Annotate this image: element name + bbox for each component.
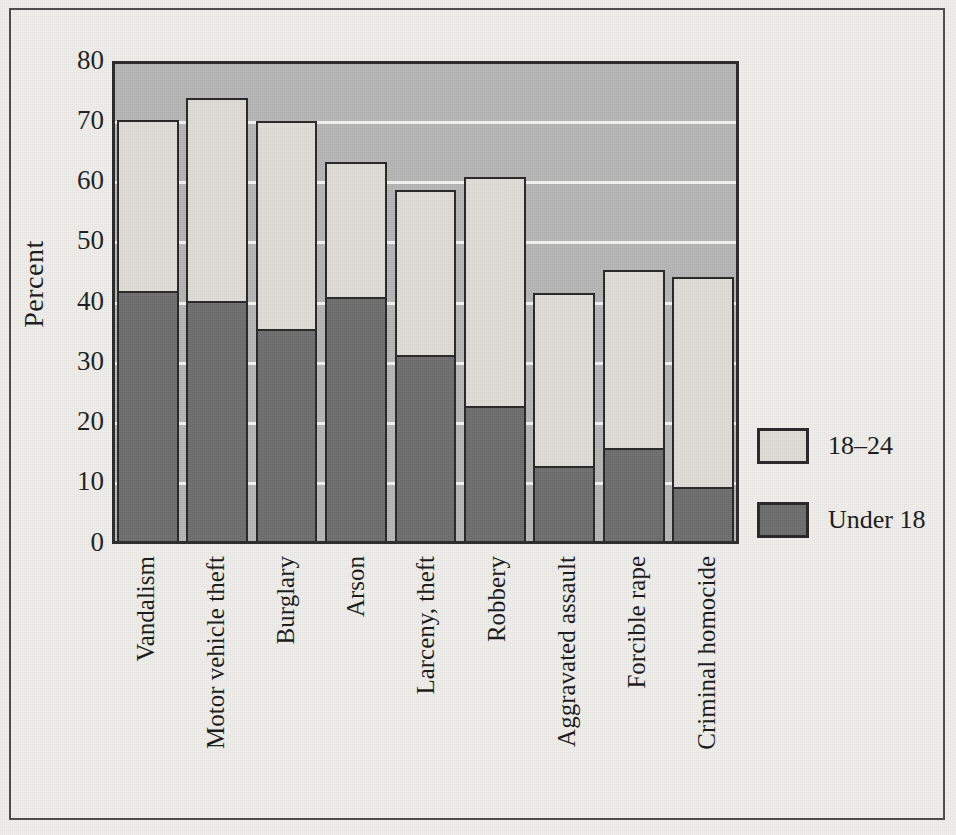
legend-label-under-18: Under 18 <box>828 507 925 533</box>
y-tick-10: 10 <box>34 468 104 495</box>
bar-segment-18-24[interactable] <box>466 179 524 406</box>
x-axis-label-slot: Vandalism <box>114 552 176 792</box>
bar-stack[interactable] <box>395 190 457 541</box>
y-axis-ticks: 80 70 60 50 40 30 20 10 0 <box>26 0 104 835</box>
bar-segment-18-24[interactable] <box>397 192 455 355</box>
bar-segment-under-18[interactable] <box>119 291 177 541</box>
x-axis-label-slot: Motor vehicle theft <box>184 552 246 792</box>
bar-stack[interactable] <box>186 98 248 541</box>
plot-area <box>112 61 739 544</box>
y-tick-20: 20 <box>34 408 104 435</box>
bar-segment-18-24[interactable] <box>258 123 316 330</box>
bar-stack[interactable] <box>464 177 526 541</box>
bar-stack[interactable] <box>672 277 734 541</box>
legend-item-18-24: 18–24 <box>757 428 925 464</box>
x-axis-label-slot: Burglary <box>254 552 316 792</box>
bar-segment-under-18[interactable] <box>605 448 663 541</box>
legend-swatch-icon-18-24 <box>757 428 809 464</box>
bar-segment-18-24[interactable] <box>674 279 732 487</box>
y-tick-80: 80 <box>34 47 104 74</box>
y-tick-70: 70 <box>34 107 104 134</box>
bar-segment-under-18[interactable] <box>397 355 455 541</box>
legend-label-18-24: 18–24 <box>828 433 893 459</box>
chart-legend: 18–24 Under 18 <box>757 428 925 576</box>
x-axis-label: Larceny, theft <box>413 556 438 695</box>
x-axis-label: Arson <box>343 556 368 617</box>
x-axis-label-slot: Larceny, theft <box>395 552 457 792</box>
bar-segment-18-24[interactable] <box>188 100 246 301</box>
x-axis-label: Burglary <box>273 556 298 644</box>
x-axis-label-slot: Forcible rape <box>605 552 667 792</box>
bar-stack[interactable] <box>256 121 318 541</box>
x-axis-label-slot: Robbery <box>465 552 527 792</box>
bar-segment-under-18[interactable] <box>188 301 246 541</box>
bar-segment-under-18[interactable] <box>327 297 385 541</box>
bars-layer <box>115 64 736 541</box>
bar-stack[interactable] <box>603 270 665 541</box>
x-axis-label-slot: Criminal homocide <box>675 552 737 792</box>
bar-segment-18-24[interactable] <box>535 295 593 466</box>
bar-stack[interactable] <box>117 120 179 541</box>
x-axis-label: Robbery <box>483 556 508 642</box>
bar-stack[interactable] <box>325 162 387 541</box>
bar-segment-under-18[interactable] <box>258 329 316 541</box>
bar-segment-18-24[interactable] <box>605 272 663 448</box>
bar-segment-18-24[interactable] <box>119 122 177 291</box>
y-axis-title: Percent <box>18 184 50 384</box>
bar-segment-under-18[interactable] <box>466 406 524 541</box>
x-axis-label: Vandalism <box>132 556 157 662</box>
bar-segment-under-18[interactable] <box>535 466 593 541</box>
x-axis-labels: VandalismMotor vehicle theftBurglaryArso… <box>112 552 739 792</box>
x-axis-label-slot: Aggravated assault <box>535 552 597 792</box>
bar-segment-under-18[interactable] <box>674 487 732 541</box>
x-axis-label: Motor vehicle theft <box>202 556 227 749</box>
legend-item-under-18: Under 18 <box>757 502 925 538</box>
bar-segment-18-24[interactable] <box>327 164 385 296</box>
x-axis-label: Forcible rape <box>623 556 648 689</box>
bar-stack[interactable] <box>533 293 595 541</box>
x-axis-label: Aggravated assault <box>553 556 578 747</box>
legend-swatch-icon-under-18 <box>757 502 809 538</box>
y-tick-0: 0 <box>34 529 104 556</box>
figure-container: 80 70 60 50 40 30 20 10 0 Percent Vandal… <box>0 0 956 835</box>
x-axis-label: Criminal homocide <box>694 556 719 750</box>
x-axis-label-slot: Arson <box>324 552 386 792</box>
